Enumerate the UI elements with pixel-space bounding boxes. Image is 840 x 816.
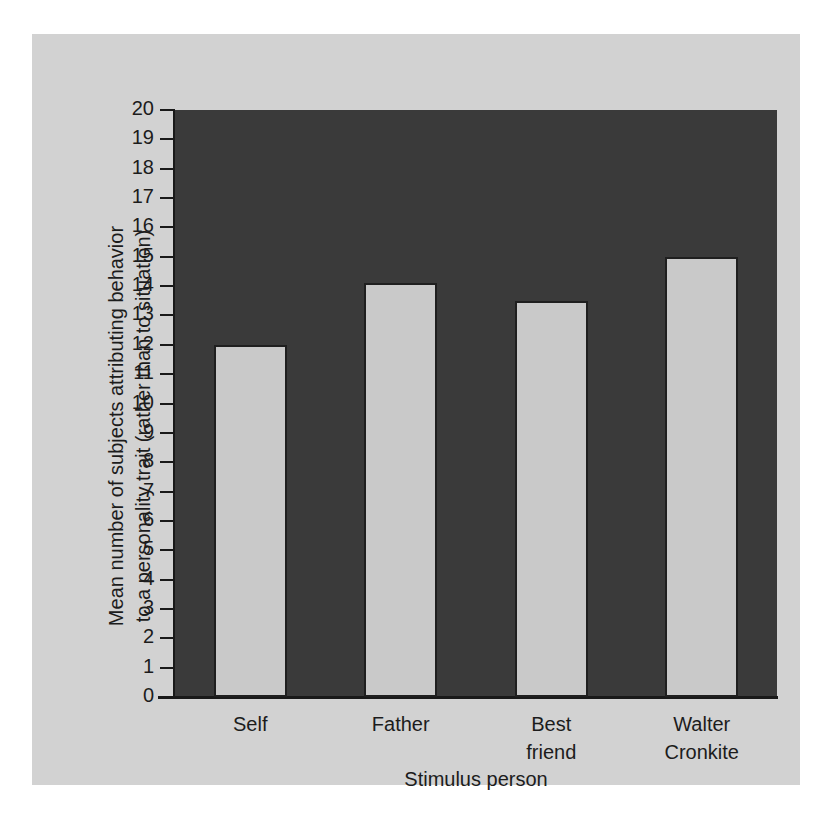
y-axis-title-line-1: Mean number of subjects attributing beha… — [103, 126, 130, 726]
x-axis-tick-label: Bestfriend — [476, 710, 627, 766]
y-axis-tick — [160, 314, 174, 316]
x-axis-title: Stimulus person — [175, 768, 777, 791]
y-axis-tick — [160, 285, 174, 287]
y-axis-title-line-2: to a personality trait (rather than to s… — [130, 126, 157, 726]
x-axis-tick-label-line: Best — [476, 710, 627, 738]
y-axis-tick — [160, 344, 174, 346]
y-axis-tick-label: 20 — [32, 97, 154, 120]
y-axis-tick — [160, 256, 174, 258]
x-axis-tick-label: Self — [175, 710, 326, 738]
bar — [515, 301, 588, 697]
y-axis-tick — [160, 461, 174, 463]
bar — [364, 283, 437, 697]
y-axis-tick — [160, 432, 174, 434]
y-axis-tick — [160, 168, 174, 170]
x-axis-tick-label-line: Self — [175, 710, 326, 738]
y-axis-tick — [160, 226, 174, 228]
x-axis-tick-label-line: Cronkite — [627, 738, 778, 766]
y-axis-tick — [160, 579, 174, 581]
y-axis-tick — [160, 138, 174, 140]
y-axis-tick — [160, 491, 174, 493]
y-axis-tick — [160, 109, 174, 111]
x-axis-tick-label-line: Father — [326, 710, 477, 738]
x-axis-tick-label: Father — [326, 710, 477, 738]
y-axis-title: Mean number of subjects attributing beha… — [103, 126, 157, 726]
bar — [214, 345, 287, 697]
bar — [665, 257, 738, 697]
y-axis-tick — [160, 520, 174, 522]
chart-panel: 20191817161514131211109876543210 SelfFat… — [32, 34, 800, 785]
y-axis-tick — [160, 637, 174, 639]
x-axis-tick-label-line: friend — [476, 738, 627, 766]
x-axis-tick-label-line: Walter — [627, 710, 778, 738]
y-axis-tick — [160, 197, 174, 199]
y-axis-tick — [160, 667, 174, 669]
figure-canvas: 20191817161514131211109876543210 SelfFat… — [0, 0, 840, 816]
y-axis-tick — [160, 608, 174, 610]
y-axis-tick — [160, 696, 174, 698]
x-axis-tick-label: WalterCronkite — [627, 710, 778, 766]
y-axis-tick — [160, 549, 174, 551]
y-axis-tick — [160, 403, 174, 405]
y-axis-tick — [160, 373, 174, 375]
